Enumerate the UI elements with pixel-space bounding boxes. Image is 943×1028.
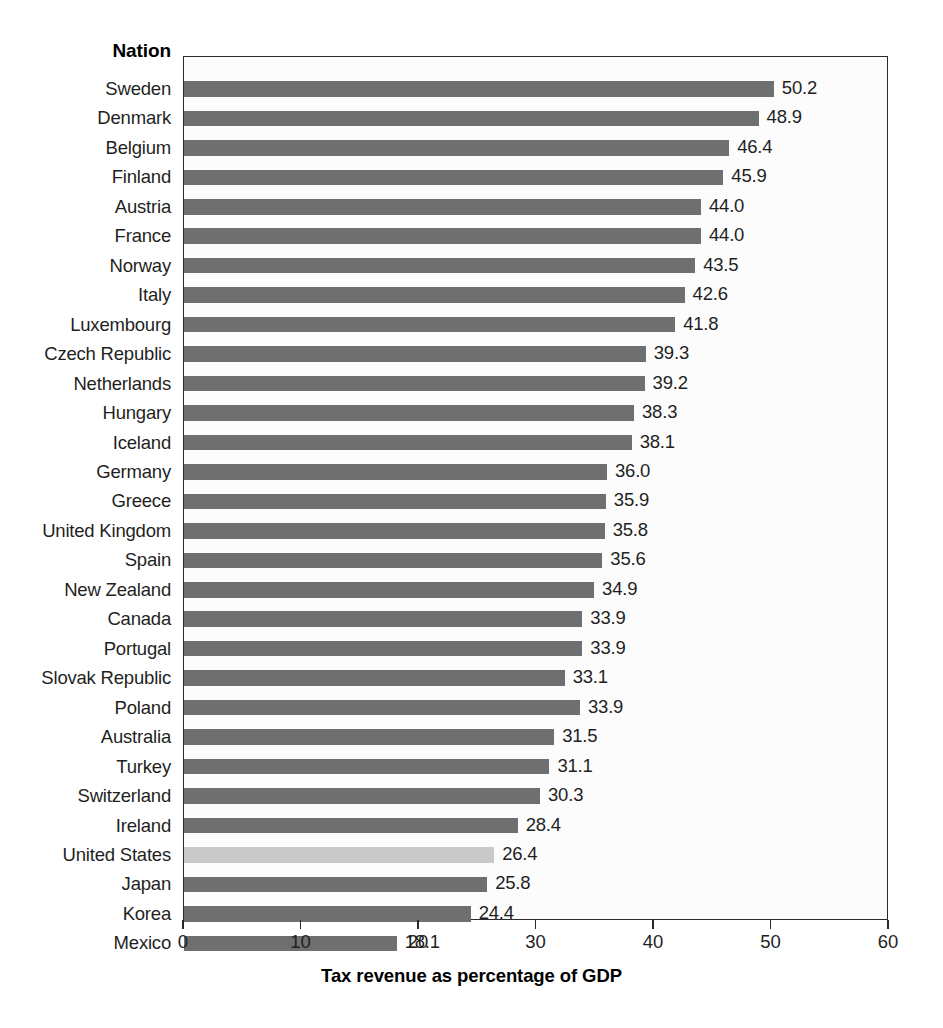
bar-row: Poland33.9 xyxy=(0,693,943,722)
category-label-italy: Italy xyxy=(0,280,171,309)
x-tick xyxy=(300,920,302,929)
bar-row: Switzerland30.3 xyxy=(0,781,943,810)
bar-row: Australia31.5 xyxy=(0,722,943,751)
bar-austria xyxy=(184,199,701,215)
bar-value-label: 28.4 xyxy=(526,812,561,841)
bar-italy xyxy=(184,287,685,303)
bar-row: Turkey31.1 xyxy=(0,752,943,781)
bar-row: Germany36.0 xyxy=(0,457,943,486)
bar-row: Netherlands39.2 xyxy=(0,369,943,398)
bar-row: Denmark48.9 xyxy=(0,103,943,132)
bar-row: Greece35.9 xyxy=(0,486,943,515)
category-label-czech-republic: Czech Republic xyxy=(0,339,171,368)
category-label-finland: Finland xyxy=(0,162,171,191)
category-label-portugal: Portugal xyxy=(0,634,171,663)
bar-row: Japan25.8 xyxy=(0,869,943,898)
bar-denmark xyxy=(184,111,759,127)
category-label-korea: Korea xyxy=(0,899,171,928)
bar-ireland xyxy=(184,818,518,834)
x-tick-label: 0 xyxy=(178,931,188,953)
bar-value-label: 45.9 xyxy=(731,163,766,192)
bar-value-label: 33.9 xyxy=(590,635,625,664)
bar-row: Slovak Republic33.1 xyxy=(0,663,943,692)
bar-row: Italy42.6 xyxy=(0,280,943,309)
bar-value-label: 35.9 xyxy=(614,487,649,516)
category-label-slovak-republic: Slovak Republic xyxy=(0,663,171,692)
category-label-mexico: Mexico xyxy=(0,928,171,957)
bar-value-label: 33.9 xyxy=(590,605,625,634)
bar-switzerland xyxy=(184,788,540,804)
bar-netherlands xyxy=(184,376,645,392)
bar-value-label: 25.8 xyxy=(495,870,530,899)
x-axis-title: Tax revenue as percentage of GDP xyxy=(0,965,943,987)
bar-row: United States26.4 xyxy=(0,840,943,869)
bar-value-label: 34.9 xyxy=(602,576,637,605)
bar-value-label: 50.2 xyxy=(782,75,817,104)
x-tick-label: 10 xyxy=(290,931,311,953)
bar-value-label: 44.0 xyxy=(709,193,744,222)
bar-value-label: 38.1 xyxy=(640,429,675,458)
x-tick-label: 40 xyxy=(643,931,664,953)
bar-row: Luxembourg41.8 xyxy=(0,310,943,339)
category-label-belgium: Belgium xyxy=(0,133,171,162)
bar-rows-container: Sweden50.2Denmark48.9Belgium46.4Finland4… xyxy=(0,56,943,920)
bar-united-states xyxy=(184,847,494,863)
category-label-greece: Greece xyxy=(0,486,171,515)
category-label-norway: Norway xyxy=(0,251,171,280)
bar-norway xyxy=(184,258,695,274)
bar-row: Portugal33.9 xyxy=(0,634,943,663)
bar-united-kingdom xyxy=(184,523,605,539)
bar-value-label: 48.9 xyxy=(767,104,802,133)
bar-row: Iceland38.1 xyxy=(0,428,943,457)
x-tick xyxy=(182,920,184,929)
category-label-united-kingdom: United Kingdom xyxy=(0,516,171,545)
bar-canada xyxy=(184,611,582,627)
category-label-spain: Spain xyxy=(0,545,171,574)
bar-value-label: 30.3 xyxy=(548,782,583,811)
bar-row: Belgium46.4 xyxy=(0,133,943,162)
bar-spain xyxy=(184,553,602,569)
bar-value-label: 35.6 xyxy=(610,546,645,575)
bar-value-label: 42.6 xyxy=(693,281,728,310)
bar-value-label: 38.3 xyxy=(642,399,677,428)
bar-row: Canada33.9 xyxy=(0,604,943,633)
bar-row: Austria44.0 xyxy=(0,192,943,221)
bar-iceland xyxy=(184,435,632,451)
bar-belgium xyxy=(184,140,729,156)
bar-row: Spain35.6 xyxy=(0,545,943,574)
tax-revenue-bar-chart: Nation Sweden50.2Denmark48.9Belgium46.4F… xyxy=(0,0,943,1028)
bar-sweden xyxy=(184,81,774,97)
category-label-australia: Australia xyxy=(0,722,171,751)
category-label-austria: Austria xyxy=(0,192,171,221)
category-label-ireland: Ireland xyxy=(0,811,171,840)
x-tick-label: 20 xyxy=(408,931,429,953)
bar-value-label: 31.1 xyxy=(557,753,592,782)
bar-czech-republic xyxy=(184,346,646,362)
bar-value-label: 43.5 xyxy=(703,252,738,281)
bar-turkey xyxy=(184,759,549,775)
bar-value-label: 26.4 xyxy=(502,841,537,870)
bar-value-label: 35.8 xyxy=(613,517,648,546)
bar-value-label: 31.5 xyxy=(562,723,597,752)
category-label-canada: Canada xyxy=(0,604,171,633)
category-label-new-zealand: New Zealand xyxy=(0,575,171,604)
category-label-turkey: Turkey xyxy=(0,752,171,781)
bar-row: France44.0 xyxy=(0,221,943,250)
x-tick-label: 60 xyxy=(878,931,899,953)
bar-finland xyxy=(184,170,723,186)
bar-australia xyxy=(184,729,554,745)
bar-value-label: 39.2 xyxy=(653,370,688,399)
bar-row: New Zealand34.9 xyxy=(0,575,943,604)
category-label-denmark: Denmark xyxy=(0,103,171,132)
bar-value-label: 39.3 xyxy=(654,340,689,369)
x-tick xyxy=(887,920,889,929)
bar-japan xyxy=(184,877,487,893)
bar-row: Norway43.5 xyxy=(0,251,943,280)
bar-value-label: 33.9 xyxy=(588,694,623,723)
x-tick xyxy=(770,920,772,929)
bar-slovak-republic xyxy=(184,670,565,686)
category-label-germany: Germany xyxy=(0,457,171,486)
bar-france xyxy=(184,228,701,244)
bar-germany xyxy=(184,464,607,480)
category-label-poland: Poland xyxy=(0,693,171,722)
